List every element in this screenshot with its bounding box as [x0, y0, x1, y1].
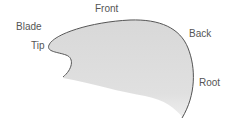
label-tip: Tip: [31, 41, 45, 51]
label-back: Back: [189, 29, 211, 39]
label-root: Root: [199, 78, 220, 88]
label-blade: Blade: [16, 22, 42, 32]
tongue-fill: [49, 20, 194, 118]
label-front: Front: [95, 4, 118, 14]
tongue-shape: [0, 0, 232, 124]
tongue-diagram: Front Blade Tip Back Root: [0, 0, 232, 124]
